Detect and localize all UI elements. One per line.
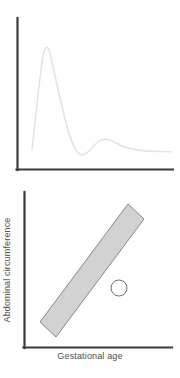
y-axis-label-wrapper: Abdominal circumference xyxy=(2,190,14,350)
waveform-plot xyxy=(0,0,180,185)
waveform-curve xyxy=(32,47,171,155)
x-axis-label: Gestational age xyxy=(0,351,180,361)
figure-root: Gestational age Abdominal circumference xyxy=(0,0,180,378)
y-axis-label: Abdominal circumference xyxy=(2,190,12,350)
growth-plot xyxy=(0,185,180,378)
outlier-measurement-circle xyxy=(111,280,127,296)
growth-scatter-panel: Gestational age xyxy=(0,185,180,378)
normal-growth-band xyxy=(40,204,144,337)
doppler-waveform-panel xyxy=(0,0,180,185)
